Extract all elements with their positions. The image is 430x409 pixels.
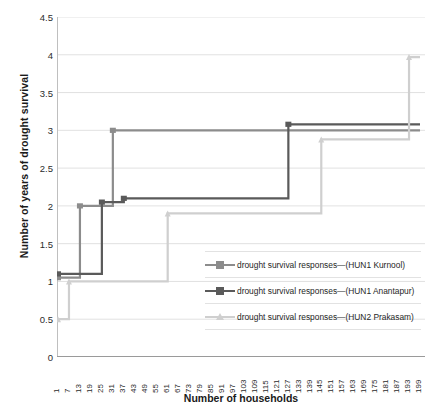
y-tick-label: 1 — [19, 276, 53, 287]
x-tick-label: 109 — [250, 380, 259, 393]
x-tick-label: 139 — [305, 380, 314, 393]
x-tick-label: 181 — [381, 380, 390, 393]
x-tick-label: 145 — [315, 380, 324, 393]
x-tick-label: 193 — [403, 380, 412, 393]
legend-item[interactable]: drought survival responses—(HUN1 Kurnool… — [205, 251, 421, 277]
y-tick-label: 0.5 — [19, 314, 53, 325]
x-axis-title: Number of households — [57, 392, 425, 404]
legend-item[interactable]: drought survival responses—(HUN1 Anantap… — [205, 277, 421, 303]
x-tick-label: 199 — [414, 380, 423, 393]
series-marker — [121, 196, 127, 201]
x-tick-label: 103 — [239, 380, 248, 393]
legend-item[interactable]: drought survival responses—(HUN2 Prakasa… — [205, 303, 421, 330]
legend-label: drought survival responses—(HUN2 Prakasa… — [235, 312, 414, 322]
y-tick-label: 2 — [19, 200, 53, 211]
y-tick-label: 0 — [19, 352, 53, 363]
y-tick-label: 2.5 — [19, 163, 53, 174]
chart-figure: Number of years of drought survival 00.5… — [0, 0, 430, 409]
y-tick-label: 1.5 — [19, 238, 53, 249]
x-tick-label: 175 — [370, 380, 379, 393]
x-tick-label: 151 — [326, 380, 335, 393]
legend-label: drought survival responses—(HUN1 Anantap… — [235, 286, 414, 296]
y-tick-label: 3.5 — [19, 87, 53, 98]
chart-legend: drought survival responses—(HUN1 Kurnool… — [205, 251, 421, 330]
x-tick-label: 169 — [359, 380, 368, 393]
y-tick-label: 4 — [19, 49, 53, 60]
x-tick-label: 163 — [348, 380, 357, 393]
x-tick-label: 157 — [337, 380, 346, 393]
y-tick-label: 3 — [19, 125, 53, 136]
x-axis-tick-labels: 1713192531374349556167737985919710310911… — [57, 359, 425, 393]
y-axis-tick-labels: 00.511.522.533.544.5 — [14, 17, 53, 357]
series-marker — [77, 203, 83, 208]
x-tick-label: 121 — [272, 380, 281, 393]
y-tick-label: 4.5 — [19, 12, 53, 23]
legend-triangle-icon — [205, 311, 235, 323]
legend-square-icon — [205, 259, 235, 271]
series-marker-start — [57, 271, 61, 276]
x-tick-label: 133 — [294, 380, 303, 393]
legend-square-icon — [205, 285, 235, 297]
x-tick-label: 187 — [392, 380, 401, 393]
x-tick-label: 127 — [283, 380, 292, 393]
legend-label: drought survival responses—(HUN1 Kurnool… — [235, 260, 405, 270]
series-marker — [285, 122, 291, 127]
series-marker — [99, 200, 105, 205]
series-marker — [110, 128, 116, 133]
